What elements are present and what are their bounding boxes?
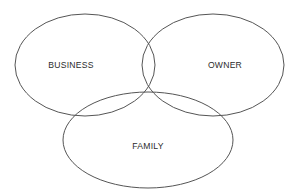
venn-circle-family[interactable] — [63, 92, 233, 188]
venn-label-family: FAMILY — [132, 141, 163, 151]
venn-label-business: BUSINESS — [48, 60, 93, 70]
venn-diagram-canvas: BUSINESS OWNER FAMILY — [0, 0, 300, 196]
venn-diagram: BUSINESS OWNER FAMILY — [0, 0, 300, 196]
venn-label-owner: OWNER — [208, 60, 242, 70]
